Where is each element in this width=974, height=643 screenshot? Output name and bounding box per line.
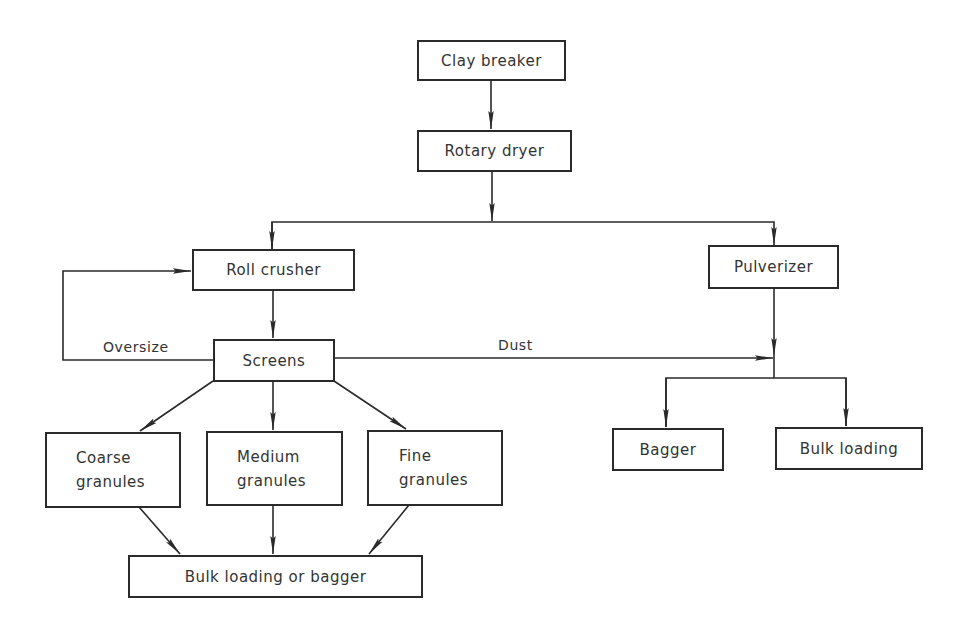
arrow-coarse-to-bulk xyxy=(139,507,180,554)
node-bulk-loading-or-bagger: Bulk loading or bagger xyxy=(128,555,423,598)
arrow-screens-to-fine xyxy=(334,381,406,429)
node-label-line2: granules xyxy=(399,468,468,492)
split-bagger-bulk xyxy=(666,378,846,427)
arrow-screens-to-coarse xyxy=(140,381,213,431)
node-fine-granules: Fine granules xyxy=(367,430,503,506)
connector-lines xyxy=(0,0,974,643)
node-label: Pulverizer xyxy=(734,255,813,279)
node-label: Bagger xyxy=(640,438,697,462)
flowchart: Clay breaker Rotary dryer Roll crusher P… xyxy=(0,0,974,643)
edge-label-dust: Dust xyxy=(498,337,533,353)
node-label: Screens xyxy=(243,349,306,373)
node-rotary-dryer: Rotary dryer xyxy=(417,130,572,172)
node-bagger: Bagger xyxy=(612,428,724,471)
node-medium-granules: Medium granules xyxy=(206,431,343,506)
node-coarse-granules: Coarse granules xyxy=(45,432,181,508)
node-label: Bulk loading xyxy=(800,437,899,461)
node-label: Roll crusher xyxy=(226,258,321,282)
node-pulverizer: Pulverizer xyxy=(708,245,839,289)
node-label: Clay breaker xyxy=(441,49,542,73)
node-clay-breaker: Clay breaker xyxy=(417,40,566,81)
node-label: Bulk loading or bagger xyxy=(185,565,367,589)
node-label: Rotary dryer xyxy=(445,139,545,163)
edge-label-oversize: Oversize xyxy=(103,339,169,355)
node-label-line2: granules xyxy=(76,470,145,494)
split-line-right xyxy=(272,222,774,249)
node-screens: Screens xyxy=(213,339,335,382)
node-label-line2: granules xyxy=(237,469,306,493)
node-roll-crusher: Roll crusher xyxy=(192,249,355,291)
node-bulk-loading: Bulk loading xyxy=(775,427,923,470)
node-label-line1: Fine xyxy=(399,444,431,468)
arrow-fine-to-bulk xyxy=(369,505,409,554)
node-label-line1: Coarse xyxy=(76,446,131,470)
node-label-line1: Medium xyxy=(237,445,300,469)
